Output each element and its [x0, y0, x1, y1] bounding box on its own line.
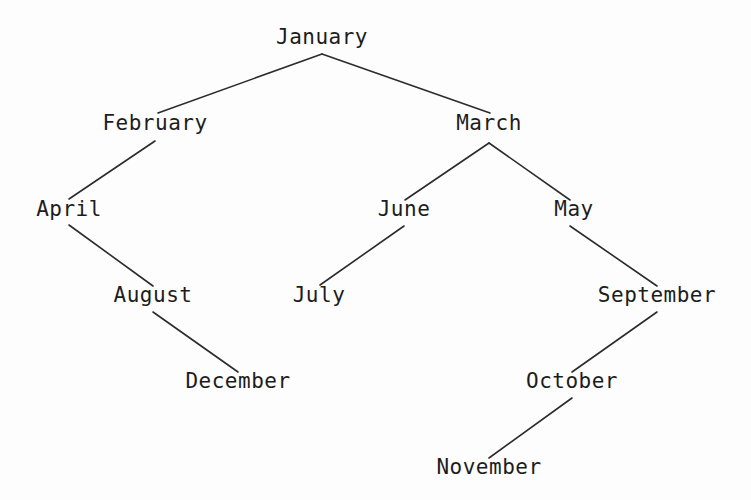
tree-node-february[interactable]: February: [102, 113, 207, 134]
tree-node-march[interactable]: March: [456, 113, 522, 134]
tree-node-october[interactable]: October: [526, 371, 618, 392]
edge-march-june: [405, 143, 489, 200]
edge-february-april: [69, 141, 155, 199]
tree-node-april[interactable]: April: [36, 199, 102, 220]
edge-april-august: [69, 225, 153, 286]
tree-node-july[interactable]: July: [293, 285, 346, 306]
edge-september-october: [572, 312, 657, 372]
tree-node-november[interactable]: November: [436, 457, 541, 478]
tree-diagram-canvas: JanuaryFebruaryMarchAprilJuneMayAugustJu…: [0, 0, 751, 500]
edge-march-may: [489, 143, 570, 200]
edge-august-december: [153, 312, 238, 372]
tree-node-june[interactable]: June: [378, 199, 431, 220]
edge-january-march: [322, 54, 490, 113]
tree-node-august[interactable]: August: [114, 285, 193, 306]
tree-node-december[interactable]: December: [185, 371, 290, 392]
edge-october-november: [489, 398, 572, 458]
tree-node-september[interactable]: September: [598, 285, 716, 306]
edge-january-february: [158, 54, 322, 113]
tree-edge-layer: [0, 0, 751, 500]
tree-node-january[interactable]: January: [276, 27, 368, 48]
edge-may-september: [570, 226, 657, 286]
tree-node-may[interactable]: May: [554, 199, 593, 220]
edge-june-july: [320, 226, 404, 285]
